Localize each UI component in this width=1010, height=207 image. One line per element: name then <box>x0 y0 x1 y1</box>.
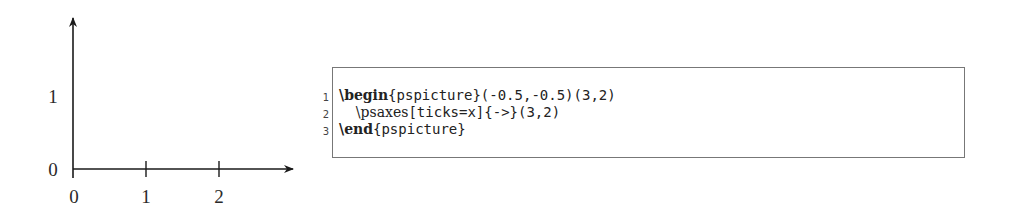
code-text: {pspicture} <box>373 121 466 137</box>
y-tick-label-1: 1 <box>48 86 58 107</box>
code-line-3: \end{pspicture} <box>339 121 466 138</box>
code-keyword-end: end <box>344 121 373 137</box>
code-line-2: \psaxes[ticks=x]{->}(3,2) <box>339 104 560 121</box>
code-indent <box>339 104 356 120</box>
line-number-1: 1 <box>317 92 329 103</box>
line-number-2: 2 <box>317 109 329 120</box>
code-text: {pspicture}(-0.5,-0.5)(3,2) <box>388 87 616 103</box>
x-tick-label-1: 1 <box>141 186 151 207</box>
psaxes-figure: 0 1 2 0 1 <box>0 0 320 207</box>
line-number-3: 3 <box>317 126 329 137</box>
x-tick-label-2: 2 <box>214 186 224 207</box>
y-tick-label-0: 0 <box>48 159 58 180</box>
code-text: [ticks=x]{->}(3,2) <box>408 104 560 120</box>
code-command-psaxes: \psaxes <box>356 104 409 120</box>
code-line-1: \begin{pspicture}(-0.5,-0.5)(3,2) <box>339 87 616 104</box>
code-listing-box: \begin{pspicture}(-0.5,-0.5)(3,2) \psaxe… <box>332 67 965 158</box>
code-keyword-begin: begin <box>344 87 388 103</box>
x-tick-label-0: 0 <box>69 186 79 207</box>
